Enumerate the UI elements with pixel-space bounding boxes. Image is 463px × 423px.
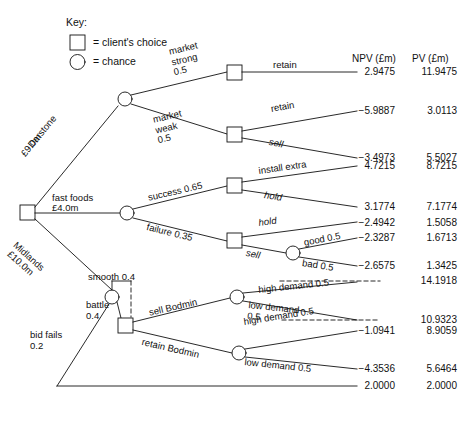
branch-label-bid-fails: bid fails 0.2 (30, 330, 62, 351)
outcome-npv: 4.7215 (345, 160, 395, 171)
outcome-npv: 2.0000 (345, 380, 395, 391)
market-weak-decision-node (227, 127, 242, 142)
outcome-npv: −1.0941 (345, 325, 395, 336)
sell-bodmin-chance-node (230, 290, 244, 304)
outcome-pv: 3.0113 (405, 105, 457, 116)
key-square-symbol (70, 35, 85, 50)
bodmin-decision-node (118, 318, 133, 333)
darstone-chance-node (118, 92, 132, 106)
edge-battle (117, 302, 121, 318)
outcome-pv: 11.9475 (405, 66, 457, 77)
outcome-npv: −2.3287 (345, 232, 395, 243)
key-circle-symbol (70, 55, 85, 70)
key-title: Key: (66, 16, 87, 28)
branch-label-fast-foods-line2: £4.0m (52, 203, 78, 214)
outcome-pv: 7.1774 (405, 201, 457, 212)
outcome-npv: −5.9887 (345, 105, 395, 116)
outcome-pv: 5.6464 (405, 363, 457, 374)
outcome-npv: 2.9475 (345, 66, 395, 77)
outcome-pv: 1.5058 (405, 217, 457, 228)
edge-retain-weak (242, 111, 357, 131)
failure-decision-node (227, 233, 242, 248)
edge-sell-weak (242, 138, 357, 158)
fast-foods-chance-node (120, 206, 134, 220)
npv-column-header: NPV (£m) (352, 53, 396, 64)
outcome-pv: 1.6713 (405, 232, 457, 243)
outcome-npv: −4.3536 (345, 363, 395, 374)
success-decision-node (227, 178, 242, 193)
outcome-npv: −2.6575 (345, 260, 395, 271)
outcome-pv: 10.9323 (400, 314, 457, 325)
outcome-pv: 2.0000 (405, 380, 457, 391)
outcome-npv: 3.1774 (345, 201, 395, 212)
market-strong-decision-node (227, 65, 242, 80)
outcome-npv: −2.4942 (345, 217, 395, 228)
key-square-label: = client's choice (93, 36, 167, 48)
branch-label-smooth: smooth 0.4 (88, 272, 135, 283)
branch-label-battle: battle 0.4 (86, 300, 109, 321)
key-circle-label: = chance (93, 55, 136, 67)
sell-failure-chance-node (286, 246, 300, 260)
edge-hold-success (242, 190, 357, 207)
outcome-pv: 8.7215 (405, 160, 457, 171)
decision-tree-figure: Key: = client's choice = chance NPV (£m)… (0, 0, 463, 423)
edge-high-demand-2 (245, 331, 357, 349)
outcome-pv: 8.9059 (405, 325, 457, 336)
root-decision-node (20, 205, 35, 220)
pv-column-header: PV (£m) (412, 53, 449, 64)
outcome-pv: 14.1918 (400, 275, 457, 286)
branch-label-retain-strong: retain (273, 60, 297, 71)
outcome-pv: 1.3425 (405, 260, 457, 271)
